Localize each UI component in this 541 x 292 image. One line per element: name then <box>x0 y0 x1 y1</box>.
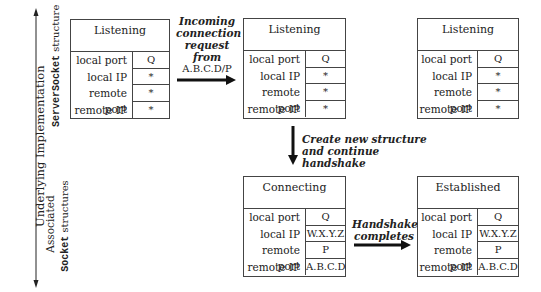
field-value: P <box>306 242 345 259</box>
note-line: from <box>176 51 238 63</box>
note-line: Incoming <box>176 15 238 27</box>
field-value: Q <box>478 51 518 68</box>
field-value: Q <box>306 209 345 226</box>
field-value: Q <box>306 51 345 68</box>
state-header: Listening <box>418 19 518 51</box>
field-value: * <box>306 68 345 85</box>
table-row: remote IP* <box>71 102 169 119</box>
field-label: remote port <box>244 242 306 259</box>
field-label: local port <box>418 51 478 68</box>
field-label: remote IP <box>418 101 478 118</box>
table-row: local portQ <box>244 51 345 68</box>
field-label: local port <box>244 209 306 226</box>
field-label: local IP <box>71 69 133 86</box>
field-label: remote IP <box>244 101 306 118</box>
field-value: * <box>306 101 345 118</box>
note-line: completes <box>352 230 416 242</box>
table-row: remote IPA.B.C.D <box>244 259 345 276</box>
associated-label: Associated <box>44 184 56 264</box>
table-row: local IP* <box>71 69 169 86</box>
field-value: P <box>478 242 518 259</box>
field-value: A.B.C.D <box>478 259 518 276</box>
table-row: remote portP <box>244 242 345 259</box>
field-value: W.X.Y.Z <box>306 226 345 243</box>
create-structure-note: Create new structure and continue handsh… <box>302 133 432 169</box>
socket-class-name: Socket <box>60 236 71 272</box>
serversocket-box-initial: Listening local portQ local IP* remote p… <box>70 19 170 119</box>
table-row: remote port* <box>418 84 518 101</box>
handshake-completes-note: Handshake completes <box>352 218 416 242</box>
table-row: local IP* <box>418 68 518 85</box>
serversocket-suffix: structure <box>50 5 61 55</box>
field-label: local port <box>418 209 478 226</box>
table-row: remote IPA.B.C.D <box>418 259 518 276</box>
note-line: Create new structure <box>302 133 432 145</box>
incoming-request-note: Incoming connection request from A.B.C.D… <box>176 15 238 75</box>
field-value: * <box>306 84 345 101</box>
field-value: * <box>133 69 169 86</box>
state-header: Connecting <box>244 177 345 209</box>
field-label: local port <box>71 52 133 69</box>
field-label: local IP <box>418 226 478 243</box>
field-value: * <box>133 85 169 102</box>
field-label: local IP <box>418 68 478 85</box>
field-label: local IP <box>244 68 306 85</box>
table-row: remote IP* <box>418 101 518 118</box>
field-label: remote port <box>418 84 478 101</box>
table-row: local IPW.X.Y.Z <box>244 226 345 243</box>
field-value: * <box>478 101 518 118</box>
field-value: * <box>133 102 169 119</box>
field-label: remote IP <box>71 102 133 119</box>
socket-suffix: structures <box>59 180 70 235</box>
table-row: local IPW.X.Y.Z <box>418 226 518 243</box>
right-arrow-icon <box>0 0 1 1</box>
table-row: remote port* <box>71 85 169 102</box>
socket-box-established: Established local portQ local IPW.X.Y.Z … <box>417 176 519 277</box>
socket-structures-label: Socket structures <box>59 166 71 286</box>
note-line: connection <box>176 27 238 39</box>
field-value: Q <box>478 209 518 226</box>
note-line: request <box>176 39 238 51</box>
field-value: A.B.C.D <box>306 259 345 276</box>
state-header: Listening <box>244 19 345 51</box>
table-row: remote IP* <box>244 101 345 118</box>
field-label: local IP <box>244 226 306 243</box>
serversocket-box-after-request: Listening local portQ local IP* remote p… <box>243 18 346 119</box>
field-label: remote IP <box>244 259 306 276</box>
field-value: * <box>478 84 518 101</box>
field-value: W.X.Y.Z <box>478 226 518 243</box>
table-row: local IP* <box>244 68 345 85</box>
note-line: Handshake <box>352 218 416 230</box>
table-row: local portQ <box>418 51 518 68</box>
state-header: Listening <box>71 20 169 52</box>
note-line: and continue handshake <box>302 145 432 169</box>
table-row: local portQ <box>71 52 169 69</box>
table-row: remote port* <box>244 84 345 101</box>
source-address: A.B.C.D/P <box>176 63 238 75</box>
field-label: local port <box>244 51 306 68</box>
field-value: Q <box>133 52 169 69</box>
table-row: local portQ <box>244 209 345 226</box>
field-value: * <box>478 68 518 85</box>
field-label: remote port <box>418 242 478 259</box>
field-label: remote IP <box>418 259 478 276</box>
serversocket-class-name: ServerSocket <box>51 55 62 127</box>
state-header: Established <box>418 177 518 209</box>
field-label: remote port <box>71 85 133 102</box>
serversocket-structure-label: ServerSocket structure <box>50 7 62 127</box>
socket-box-connecting: Connecting local portQ local IPW.X.Y.Z r… <box>243 176 346 277</box>
table-row: remote portP <box>418 242 518 259</box>
serversocket-box-final: Listening local portQ local IP* remote p… <box>417 18 519 119</box>
field-label: remote port <box>244 84 306 101</box>
table-row: local portQ <box>418 209 518 226</box>
